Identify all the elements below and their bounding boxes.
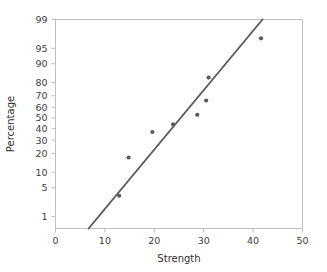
x-tick-label: 0 (52, 235, 58, 246)
y-tick-label: 99 (35, 14, 47, 25)
data-point (127, 155, 131, 159)
y-axis-title: Percentage (5, 96, 16, 152)
data-point (259, 36, 263, 40)
y-tick-label: 70 (35, 90, 47, 101)
data-point (207, 75, 211, 79)
data-point (117, 194, 121, 198)
plot-canvas: 151020304050607080909599 01020304050 Str… (0, 0, 327, 272)
x-tick-label: 30 (198, 235, 210, 246)
y-tick-label: 90 (35, 58, 47, 69)
y-tick-label: 50 (35, 112, 47, 123)
data-point (150, 130, 154, 134)
x-tick-label: 10 (99, 235, 111, 246)
probability-plot: 151020304050607080909599 01020304050 Str… (0, 0, 327, 272)
y-tick-label: 10 (35, 167, 47, 178)
y-tick-label: 60 (35, 102, 47, 113)
y-tick-label: 40 (35, 123, 47, 134)
plot-background (0, 0, 327, 272)
data-point (171, 122, 175, 126)
y-tick-label: 5 (41, 182, 47, 193)
x-axis-title: Strength (157, 253, 200, 264)
x-tick-label: 40 (247, 235, 259, 246)
x-tick-label: 50 (296, 235, 308, 246)
data-point (204, 98, 208, 102)
data-point (195, 113, 199, 117)
x-tick-label: 20 (148, 235, 160, 246)
y-tick-label: 95 (35, 43, 47, 54)
y-tick-label: 80 (35, 77, 47, 88)
y-tick-label: 30 (35, 135, 47, 146)
y-tick-label: 20 (35, 148, 47, 159)
y-tick-label: 1 (41, 211, 47, 222)
